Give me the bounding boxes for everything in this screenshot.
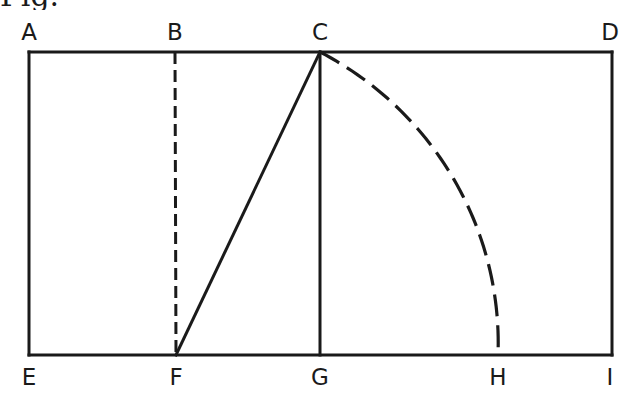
point-label-e: E <box>22 364 37 390</box>
point-label-g: G <box>311 364 329 390</box>
diagram-canvas: ABCDEFGHI <box>0 0 629 395</box>
point-label-a: A <box>21 19 37 45</box>
arc-CH <box>320 52 498 355</box>
point-label-f: F <box>169 364 182 390</box>
point-label-h: H <box>489 364 506 390</box>
diagonal-FC <box>176 52 320 355</box>
point-label-c: C <box>312 19 328 45</box>
dashed-line-BF <box>175 52 176 355</box>
point-label-d: D <box>601 19 619 45</box>
golden-rectangle-diagram: Fig. ABCDEFGHI <box>0 0 629 395</box>
point-label-b: B <box>167 19 183 45</box>
point-label-i: I <box>607 364 614 390</box>
